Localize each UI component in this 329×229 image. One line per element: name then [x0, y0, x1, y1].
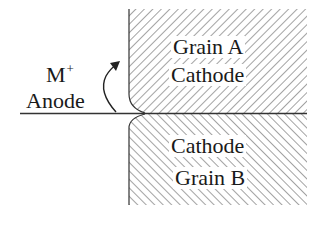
grain-a-cathode-label: Cathode	[169, 64, 246, 86]
grain-b-cathode-label: Cathode	[169, 135, 246, 157]
diagram-graphics	[0, 0, 329, 229]
anode-label: Anode	[26, 90, 85, 112]
metal-ion-label: M+	[46, 62, 74, 86]
grain-a-label: Grain A	[171, 36, 245, 58]
grain-b-label: Grain B	[173, 167, 247, 189]
grain-a-region	[129, 9, 307, 113]
ion-dissolution-arrow	[104, 65, 116, 112]
grain-b-region	[129, 114, 307, 205]
ion-charge: +	[67, 61, 74, 76]
ion-symbol: M	[46, 62, 66, 87]
grain-boundary-corrosion-diagram: Grain A Cathode Cathode Grain B M+ Anode	[0, 0, 329, 229]
